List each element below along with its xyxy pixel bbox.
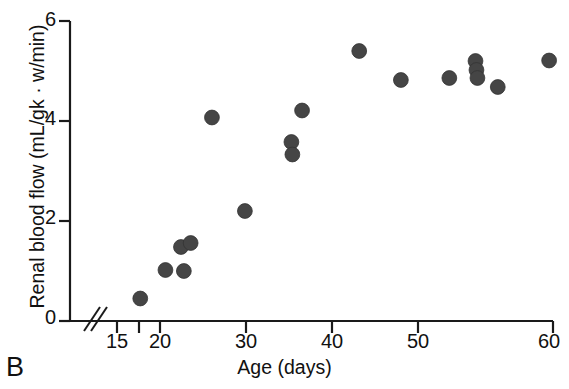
data-point [352,44,367,59]
data-point [133,291,148,306]
data-point [237,204,252,219]
data-point [205,110,220,125]
data-point [442,71,457,86]
x-axis-break-mark-2 [91,307,107,331]
data-point [490,80,505,95]
data-point [295,103,310,118]
x-axis-break-mark-1 [84,307,100,331]
plot-area [0,0,569,389]
data-point [393,73,408,88]
figure-panel-b: B Renal blood flow (mL/gk · w/min) Age (… [0,0,569,389]
data-point [542,53,557,68]
data-point [176,264,191,279]
data-point [285,147,300,162]
scatter-series-renal-blood-flow [133,44,557,306]
data-point [470,71,485,86]
data-point [158,263,173,278]
data-point [183,236,198,251]
